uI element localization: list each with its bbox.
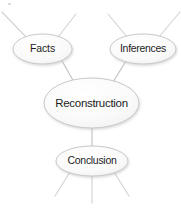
facts-to-reconstruction: [62, 61, 74, 82]
inferences-stub-upper-left: [108, 14, 127, 37]
node-inferences-label: Inferences: [120, 42, 166, 54]
node-conclusion-label: Conclusion: [68, 154, 117, 166]
conclusion-stub-lower-left: [55, 172, 70, 196]
corner-speck: [8, 3, 11, 5]
node-layer: FactsInferencesReconstructionConclusion: [13, 34, 176, 176]
diagram-canvas: FactsInferencesReconstructionConclusion: [0, 0, 181, 209]
inferences-to-reconstruction: [113, 61, 126, 82]
node-facts-label: Facts: [30, 42, 55, 54]
cluster-diagram: FactsInferencesReconstructionConclusion: [0, 0, 181, 209]
scan-artifact-layer: [8, 3, 11, 5]
facts-stub-upper-right: [58, 14, 76, 37]
conclusion-stub-lower-right: [114, 172, 129, 196]
node-reconstruction[interactable]: Reconstruction: [44, 78, 139, 128]
node-facts[interactable]: Facts: [13, 34, 72, 64]
node-inferences[interactable]: Inferences: [110, 34, 176, 64]
facts-stub-upper-left: [2, 12, 26, 37]
inferences-stub-upper-right: [159, 12, 180, 37]
node-reconstruction-label: Reconstruction: [55, 97, 128, 109]
node-conclusion[interactable]: Conclusion: [56, 146, 128, 176]
